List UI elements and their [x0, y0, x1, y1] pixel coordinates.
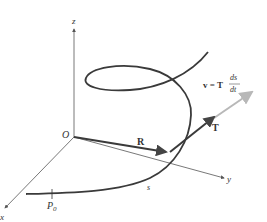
y-axis [74, 137, 224, 178]
velocity-dt: dt [230, 85, 237, 94]
velocity-vector [214, 92, 252, 118]
tangent-vector-T [170, 117, 214, 152]
x-axis-label: x [0, 212, 4, 222]
velocity-equation-lhs: v = T [203, 80, 223, 90]
z-axis-label: z [71, 16, 76, 26]
p0-label: P0 [46, 200, 57, 213]
R-label: R [137, 136, 145, 147]
x-axis [5, 137, 74, 208]
space-curve [26, 52, 208, 194]
velocity-ds: ds [230, 73, 237, 82]
arc-length-label: s [147, 183, 150, 192]
space-curve-diagram: z x y O R T v = T ds dt s P0 [0, 0, 267, 222]
origin-label: O [62, 129, 69, 140]
y-axis-label: y [226, 174, 231, 184]
T-label: T [212, 122, 219, 133]
